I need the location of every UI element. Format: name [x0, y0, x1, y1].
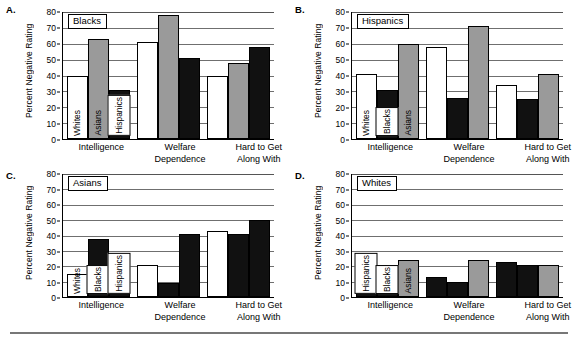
panel-c-bar-blacks-1: Blacks — [88, 239, 109, 297]
panel-b-series-label-asians: Asians — [398, 110, 419, 136]
panel-b-bar-group: WhitesBlacksAsians — [352, 12, 422, 139]
panel-a-x-label-3: Hard to Get Along With — [219, 142, 298, 165]
panel-d-bar-group — [422, 174, 492, 297]
panel-a-bar-asians-2 — [158, 15, 179, 139]
panel-c-series-label-hispanics: Hispanics — [108, 253, 131, 294]
panel-b-x-label-1: Intelligence — [351, 142, 430, 165]
panel-a-y-tick-mark — [57, 108, 60, 109]
panel-d-y-tick-mark — [346, 298, 349, 299]
panel-b-y-axis-label: Percent Negative Rating — [311, 12, 325, 130]
panel-d-bar-hispanics-3 — [496, 262, 517, 297]
panel-d-y-tick-label: 60 — [336, 200, 345, 210]
panel-a-y-tick-mark — [57, 140, 60, 141]
panel-a-x-label-2: Welfare Dependence — [141, 142, 220, 165]
panel-c-y-tick-mark — [57, 174, 60, 175]
panel-a-bar-group — [133, 12, 203, 139]
panel-b-y-tick-label: 0 — [340, 135, 345, 145]
panel-d-title: Whites — [357, 176, 397, 191]
panel-a-y-tick-mark — [57, 76, 60, 77]
panel-d-bar-blacks-1: Blacks — [377, 282, 398, 297]
panel-b-plot-area: 80706050403020100 Hispanics WhitesBlacks… — [327, 12, 563, 140]
panel-b-bar-whites-2 — [426, 47, 447, 139]
panel-b-y-tick-mark — [346, 76, 349, 77]
panel-d-bar-asians-1: Asians — [398, 260, 419, 297]
panel-a-series-label-hispanics: Hispanics — [108, 95, 131, 136]
panel-b-y-tick-label: 30 — [336, 87, 345, 97]
panel-b: B. Percent Negative Rating 8070605040302… — [289, 0, 578, 166]
panel-d-series-label-asians: Asians — [398, 268, 419, 294]
panel-b-bar-group — [493, 12, 563, 139]
panel-b-bar-blacks-1: Blacks — [377, 90, 398, 139]
panel-d-bar-asians-2 — [468, 260, 489, 297]
panel-a-y-axis-label: Percent Negative Rating — [22, 12, 36, 130]
panel-b-bar-whites-3 — [496, 85, 517, 139]
panel-a-series-label-whites: Whites — [67, 110, 88, 136]
panel-d-y-tick-mark — [346, 282, 349, 283]
figure-sheet: A. Percent Negative Rating 8070605040302… — [0, 0, 578, 342]
panel-a-y-tick-label: 30 — [47, 87, 56, 97]
panel-d-letter: D. — [295, 170, 305, 181]
panel-d-bar-group — [493, 174, 563, 297]
panel-d-x-label-1: Intelligence — [351, 300, 430, 323]
panel-grid: A. Percent Negative Rating 8070605040302… — [0, 0, 578, 325]
panel-c-plot-area: 80706050403020100 Asians WhitesBlacksHis… — [38, 174, 274, 298]
panel-a-y-tick-mark — [57, 92, 60, 93]
panel-b-y-tick-mark — [346, 12, 349, 13]
panel-b-y-tick-label: 10 — [336, 119, 345, 129]
panel-a-y-tick-label: 70 — [47, 23, 56, 33]
panel-d-bar-hispanics-1: Hispanics — [356, 280, 377, 297]
panel-c-y-tick-mark — [57, 205, 60, 206]
panel-c-y-tick-mark — [57, 189, 60, 190]
panel-b-y-tick-label: 20 — [336, 103, 345, 113]
panel-d-y-tick-mark — [346, 251, 349, 252]
panel-d-y-tick-label: 0 — [340, 293, 345, 303]
panel-d-bar-blacks-3 — [517, 265, 538, 297]
panel-d-x-labels: IntelligenceWelfare DependenceHard to Ge… — [351, 300, 578, 323]
panel-a-x-labels: IntelligenceWelfare DependenceHard to Ge… — [62, 142, 298, 165]
panel-c-bar-group — [133, 174, 203, 297]
panel-d-series-label-hispanics: Hispanics — [355, 253, 378, 294]
panel-a-y-tick-label: 10 — [47, 119, 56, 129]
panel-c-bar-hispanics-1: Hispanics — [109, 274, 130, 297]
panel-a-series-label-asians: Asians — [88, 110, 109, 136]
panel-a-y-tick-mark — [57, 60, 60, 61]
panel-c-bars: WhitesBlacksHispanics — [63, 174, 274, 297]
panel-d-series-label-blacks: Blacks — [376, 265, 399, 294]
panel-d-y-tick-label: 80 — [336, 169, 345, 179]
panel-a-bar-group — [204, 12, 274, 139]
panel-d: D. Percent Negative Rating 8070605040302… — [289, 166, 578, 325]
panel-a: A. Percent Negative Rating 8070605040302… — [0, 0, 289, 166]
panel-d-y-axis-label: Percent Negative Rating — [311, 174, 325, 292]
panel-b-series-label-whites: Whites — [356, 110, 377, 136]
panel-a-y-tick-label: 80 — [47, 7, 56, 17]
panel-c: C. Percent Negative Rating 8070605040302… — [0, 166, 289, 325]
panel-c-y-tick-mark — [57, 236, 60, 237]
panel-b-bar-asians-3 — [538, 74, 559, 139]
panel-c-bar-whites-2 — [137, 265, 158, 297]
panel-d-y-tick-label: 50 — [336, 216, 345, 226]
panel-b-y-tick-mark — [346, 108, 349, 109]
panel-c-x-labels: IntelligenceWelfare DependenceHard to Ge… — [62, 300, 298, 323]
panel-a-y-tick-mark — [57, 12, 60, 13]
panel-c-x-label-1: Intelligence — [62, 300, 141, 323]
panel-a-y-tick-label: 0 — [51, 135, 56, 145]
panel-a-bar-group: WhitesAsiansHispanics — [63, 12, 133, 139]
panel-a-bar-hispanics-2 — [179, 58, 200, 139]
panel-c-bar-group — [204, 174, 274, 297]
panel-c-series-label-whites: Whites — [67, 268, 88, 294]
panel-c-y-tick-label: 50 — [47, 216, 56, 226]
panel-a-y-tick-label: 40 — [47, 71, 56, 81]
panel-b-y-ticks: 80706050403020100 — [327, 12, 349, 140]
panel-c-y-tick-label: 80 — [47, 169, 56, 179]
panel-c-y-tick-mark — [57, 282, 60, 283]
panel-c-bar-group: WhitesBlacksHispanics — [63, 174, 133, 297]
panel-d-x-label-2: Welfare Dependence — [430, 300, 509, 323]
panel-d-y-tick-mark — [346, 267, 349, 268]
panel-d-y-tick-label: 30 — [336, 247, 345, 257]
panel-d-bar-group: HispanicsBlacksAsians — [352, 174, 422, 297]
panel-b-bar-blacks-3 — [517, 99, 538, 139]
panel-a-bar-asians-1: Asians — [88, 39, 109, 139]
panel-d-y-tick-label: 10 — [336, 278, 345, 288]
panel-a-y-tick-mark — [57, 44, 60, 45]
panel-b-letter: B. — [295, 4, 305, 15]
